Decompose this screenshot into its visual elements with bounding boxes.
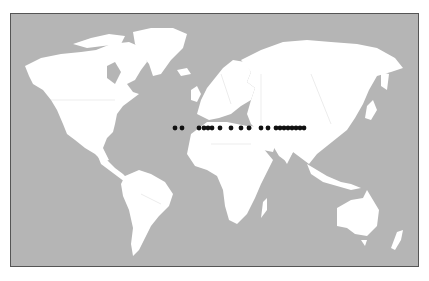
marker-dot bbox=[210, 126, 215, 131]
landmass-tasmania bbox=[361, 240, 367, 246]
map-canvas bbox=[11, 14, 418, 266]
landmass-new-zealand bbox=[391, 230, 403, 250]
world-map bbox=[10, 13, 419, 267]
landmass-japan bbox=[365, 100, 377, 120]
marker-dot bbox=[259, 126, 264, 131]
marker-dot bbox=[239, 126, 244, 131]
marker-row bbox=[173, 126, 307, 131]
landmass-australia bbox=[337, 190, 379, 236]
marker-dot bbox=[197, 126, 202, 131]
marker-dot bbox=[266, 126, 271, 131]
landmass-southeast-asia bbox=[307, 164, 361, 190]
landmass-madagascar bbox=[261, 198, 267, 218]
marker-dot bbox=[302, 126, 307, 131]
marker-dot bbox=[218, 126, 223, 131]
landmass-north-america bbox=[25, 42, 147, 162]
landmass-iceland bbox=[177, 68, 191, 76]
marker-dot bbox=[247, 126, 252, 131]
landmass-uk bbox=[191, 86, 201, 102]
marker-dot bbox=[229, 126, 234, 131]
landmass-europe bbox=[197, 60, 255, 120]
marker-dot bbox=[180, 126, 185, 131]
landmass-south-america bbox=[121, 170, 173, 256]
landmass-kamchatka bbox=[381, 72, 389, 90]
marker-dot bbox=[173, 126, 178, 131]
